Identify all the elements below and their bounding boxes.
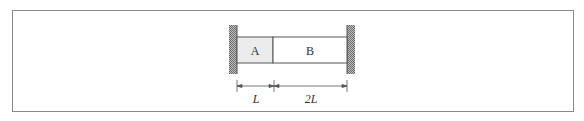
left-fixed-wall: [229, 25, 237, 74]
bar-diagram: A B L 2L: [0, 0, 584, 121]
length-a-label: L: [252, 92, 260, 106]
segment-b: B: [273, 37, 347, 63]
segment-a: A: [237, 37, 273, 63]
segment-a-label: A: [251, 44, 260, 58]
dimension-lines: [237, 80, 347, 92]
segment-b-label: B: [306, 44, 314, 58]
right-fixed-wall: [347, 25, 355, 74]
length-b-label: 2L: [305, 92, 318, 106]
